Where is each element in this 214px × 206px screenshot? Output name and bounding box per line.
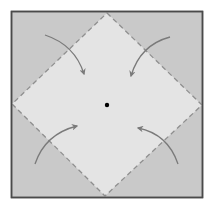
origami-diagram: [0, 0, 214, 206]
center-dot: [105, 103, 109, 107]
